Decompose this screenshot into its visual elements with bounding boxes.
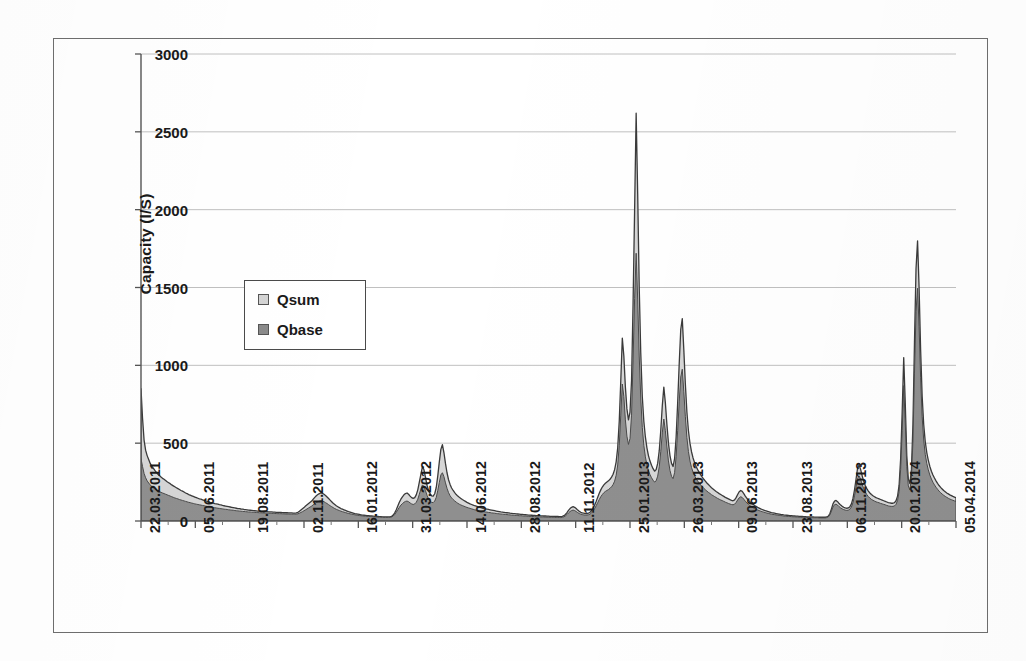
y-axis-tick-label: 3000 <box>130 46 188 63</box>
legend-item-qbase: Qbase <box>258 321 323 338</box>
y-axis-title: Capacity (l/S) <box>137 134 155 354</box>
legend-label-qsum: Qsum <box>277 291 320 308</box>
figure-frame: 050010001500200025003000 Capacity (l/S) … <box>53 38 988 633</box>
chart-figure: 050010001500200025003000 Capacity (l/S) … <box>0 0 1026 661</box>
y-axis-tick-label: 0 <box>130 513 188 530</box>
area-chart-plot <box>54 39 989 634</box>
x-axis-ticks <box>141 521 956 528</box>
legend-swatch-qsum-icon <box>258 294 269 305</box>
legend-label-qbase: Qbase <box>277 321 323 338</box>
legend-swatch-qbase-icon <box>258 324 269 335</box>
legend-item-qsum: Qsum <box>258 291 320 308</box>
gridlines <box>141 54 956 443</box>
y-axis-tick-label: 1000 <box>130 357 188 374</box>
y-axis-tick-label: 500 <box>130 435 188 452</box>
chart-legend: Qsum Qbase <box>244 280 366 350</box>
